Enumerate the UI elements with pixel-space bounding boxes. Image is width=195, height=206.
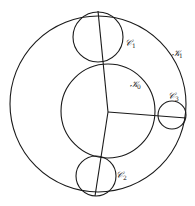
circle-diagram: 𝒦1 𝒦0 𝒞1 𝒞2 𝒞3 (0, 0, 195, 206)
label-c3: 𝒞3 (168, 91, 179, 102)
label-k1: 𝒦1 (172, 48, 183, 59)
outer-circle-k1 (10, 16, 186, 192)
svg-text:1: 1 (132, 42, 136, 49)
radius-line-to-c3 (108, 112, 186, 118)
radius-line-to-c2 (95, 112, 108, 196)
circle-c3 (158, 101, 186, 129)
label-k0: 𝒦0 (130, 79, 141, 90)
label-c2: 𝒞2 (116, 170, 127, 181)
circle-c1 (73, 12, 123, 62)
svg-text:1: 1 (179, 52, 183, 59)
svg-text:2: 2 (123, 174, 127, 181)
label-c1: 𝒞1 (125, 38, 136, 49)
svg-text:0: 0 (137, 83, 141, 90)
svg-text:3: 3 (175, 95, 179, 102)
